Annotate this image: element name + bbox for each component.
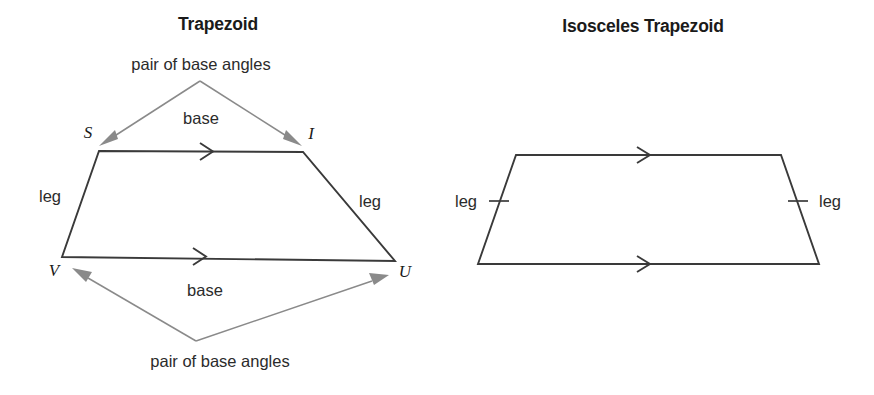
trapezoid-interior [62, 151, 395, 261]
isosceles-trapezoid-title: Isosceles Trapezoid [562, 16, 724, 36]
figure-canvas: Trapezoid pair of base angles base S I V… [0, 0, 874, 395]
leader-arrowhead-to-s [99, 130, 118, 146]
top-pair-of-base-angles-label: pair of base angles [131, 55, 270, 73]
leader-arrowhead-to-v [72, 268, 92, 282]
vertex-label-i: I [307, 124, 315, 143]
vertex-label-u: U [399, 262, 413, 281]
panel-trapezoid: Trapezoid pair of base angles base S I V… [39, 14, 413, 370]
leader-line-to-v [88, 278, 196, 341]
leader-arrowhead-to-u [369, 273, 389, 285]
leader-arrowhead-to-i [283, 130, 302, 146]
bottom-pair-of-base-angles-label: pair of base angles [150, 352, 289, 370]
geometry-figure: Trapezoid pair of base angles base S I V… [0, 0, 874, 395]
isosceles-right-leg-label: leg [819, 192, 841, 210]
vertex-label-v: V [49, 261, 62, 280]
vertex-label-s: S [84, 123, 93, 142]
top-base-label: base [183, 109, 219, 127]
trapezoid-title: Trapezoid [178, 14, 258, 34]
right-leg-label: leg [359, 192, 381, 210]
left-leg-label: leg [39, 187, 61, 205]
bottom-base-label: base [187, 281, 223, 299]
panel-isosceles-trapezoid: Isosceles Trapezoid leg leg [455, 16, 841, 272]
isosceles-left-leg-label: leg [455, 192, 477, 210]
bottom-base-angles-leader [72, 268, 389, 341]
isosceles-trapezoid-interior [478, 155, 819, 264]
